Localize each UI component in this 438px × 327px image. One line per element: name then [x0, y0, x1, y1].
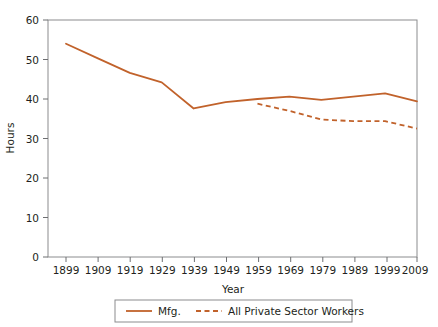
- x-tick-label-1949: 1949: [213, 264, 240, 276]
- y-tick-label-40: 40: [26, 93, 39, 105]
- legend-label-mfg: Mfg.: [158, 305, 181, 317]
- y-axis-ticks: [43, 20, 48, 257]
- x-axis-ticks: [66, 257, 417, 262]
- y-tick-label-60: 60: [26, 14, 39, 26]
- x-tick-label-1979: 1979: [309, 264, 336, 276]
- y-tick-label-0: 0: [32, 251, 39, 263]
- x-tick-label-2009: 2009: [402, 264, 429, 276]
- x-axis-title: Year: [221, 283, 245, 295]
- y-tick-label-30: 30: [26, 133, 39, 145]
- y-tick-label-20: 20: [26, 172, 39, 184]
- plot-frame: [48, 20, 417, 257]
- x-tick-label-1959: 1959: [245, 264, 272, 276]
- legend-label-all-private-sector-workers: All Private Sector Workers: [228, 305, 364, 317]
- y-tick-label-10: 10: [26, 212, 39, 224]
- legend: Mfg. All Private Sector Workers: [115, 300, 364, 322]
- chart-figure: 60 50 40 30 20 10 0 Hours 1899: [0, 0, 438, 327]
- x-tick-label-1909: 1909: [85, 264, 112, 276]
- y-tick-label-50: 50: [26, 54, 39, 66]
- line-chart: 60 50 40 30 20 10 0 Hours 1899: [0, 0, 438, 327]
- x-tick-label-1999: 1999: [374, 264, 401, 276]
- x-tick-label-1899: 1899: [53, 264, 80, 276]
- x-tick-label-1969: 1969: [277, 264, 304, 276]
- y-axis-title: Hours: [4, 123, 16, 154]
- x-tick-label-1989: 1989: [342, 264, 369, 276]
- y-axis-tick-labels: 60 50 40 30 20 10 0: [26, 14, 39, 263]
- x-tick-label-1919: 1919: [117, 264, 144, 276]
- x-tick-label-1939: 1939: [181, 264, 208, 276]
- x-axis-tick-labels: 1899 1909 1919 1929 1939 1949 1959 1969 …: [53, 264, 429, 276]
- x-tick-label-1929: 1929: [149, 264, 176, 276]
